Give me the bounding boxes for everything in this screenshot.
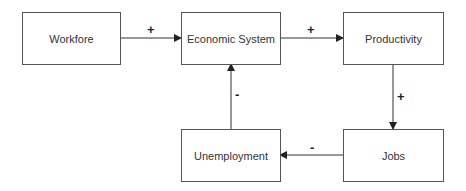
node-label: Workfore — [49, 33, 93, 45]
node-productivity: Productivity — [343, 12, 444, 65]
node-unemployment: Unemployment — [181, 129, 281, 182]
edge-sign-plus: + — [307, 23, 315, 36]
edge-sign-plus: + — [147, 23, 155, 36]
edge-sign-minus: - — [310, 141, 314, 154]
edge-sign-plus: + — [397, 90, 405, 103]
node-label: Jobs — [382, 150, 405, 162]
node-label: Productivity — [365, 33, 422, 45]
node-label: Economic System — [187, 33, 275, 45]
node-label: Unemployment — [194, 150, 268, 162]
node-workforce: Workfore — [22, 12, 121, 65]
node-jobs: Jobs — [343, 129, 444, 182]
edge-sign-minus: - — [235, 88, 239, 101]
node-economic-system: Economic System — [181, 12, 281, 65]
